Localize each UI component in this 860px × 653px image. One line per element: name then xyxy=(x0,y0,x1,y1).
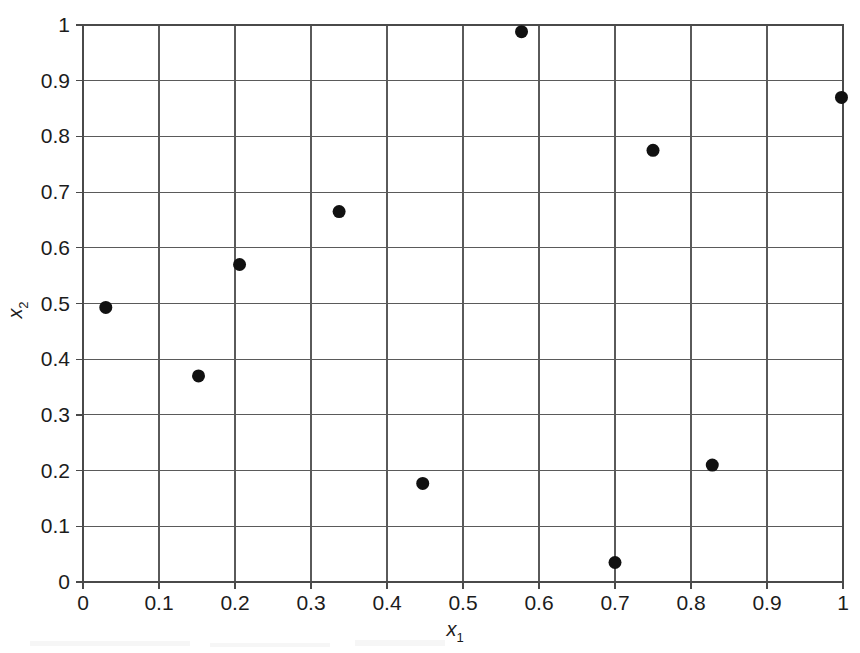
x-axis-tick-label: 0.2 xyxy=(220,591,249,614)
y-axis-tick-label: 0.4 xyxy=(41,347,71,370)
y-axis-tick-label: 0.2 xyxy=(41,459,70,482)
x-axis-tick-label: 0.8 xyxy=(676,591,705,614)
y-axis-title-subscript: 2 xyxy=(16,301,31,308)
y-axis-tick-label: 1 xyxy=(58,13,70,36)
figure-background xyxy=(0,0,860,653)
y-axis-tick-label: 0.9 xyxy=(41,69,70,92)
data-point xyxy=(835,91,848,104)
chart-canvas: 00.10.20.30.40.50.60.70.80.91 00.10.20.3… xyxy=(0,0,860,653)
x-axis-tick-label: 0.5 xyxy=(448,591,477,614)
x-axis-tick-label: 0.6 xyxy=(524,591,553,614)
data-point xyxy=(192,369,205,382)
y-axis-tick-label: 0.7 xyxy=(41,180,70,203)
x-axis-tick-label: 0.7 xyxy=(600,591,629,614)
y-axis-tick-label: 0.6 xyxy=(41,236,70,259)
x-axis-tick-label: 0 xyxy=(77,591,89,614)
data-point xyxy=(416,477,429,490)
y-axis-tick-label: 0 xyxy=(58,570,70,593)
y-axis-tick-label: 0.8 xyxy=(41,124,70,147)
data-point xyxy=(515,25,528,38)
y-axis-tick-label: 0.5 xyxy=(41,292,70,315)
x-axis-title-subscript: 1 xyxy=(456,630,463,645)
data-point xyxy=(233,258,246,271)
data-point xyxy=(333,205,346,218)
x-axis-tick-label: 1 xyxy=(837,591,849,614)
data-point xyxy=(99,301,112,314)
x-axis-tick-label: 0.3 xyxy=(296,591,325,614)
scatter-plot-figure: 00.10.20.30.40.50.60.70.80.91 00.10.20.3… xyxy=(0,0,860,653)
x-axis-tick-label: 0.4 xyxy=(372,591,402,614)
data-point xyxy=(609,556,622,569)
x-axis-tick-label: 0.1 xyxy=(144,591,173,614)
data-point xyxy=(647,144,660,157)
x-axis-tick-label: 0.9 xyxy=(752,591,781,614)
y-axis-tick-label: 0.3 xyxy=(41,403,70,426)
data-point xyxy=(706,459,719,472)
y-axis-tick-label: 0.1 xyxy=(41,514,70,537)
